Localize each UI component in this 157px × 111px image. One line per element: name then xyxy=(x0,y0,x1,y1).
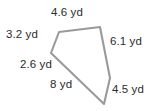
side-length-label-right: 6.1 yd xyxy=(110,35,142,48)
polygon-shape xyxy=(51,27,110,104)
side-length-label-left: 3.2 yd xyxy=(6,28,38,41)
side-length-label-bottom: 8 yd xyxy=(50,78,72,91)
geometry-figure: 4.6 yd 3.2 yd 6.1 yd 2.6 yd 8 yd 4.5 yd xyxy=(0,0,157,111)
side-length-label-lower-left: 2.6 yd xyxy=(20,58,52,71)
side-length-label-top: 4.6 yd xyxy=(51,6,83,19)
side-length-label-bottom-right: 4.5 yd xyxy=(112,83,144,96)
